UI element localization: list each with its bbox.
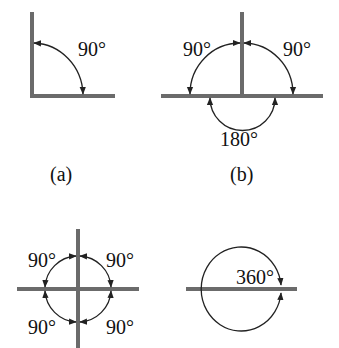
straight-angle-arc (210, 98, 275, 131)
top-right-label: 90° (106, 249, 134, 271)
left-angle-label: 90° (183, 38, 211, 60)
top-left-label: 90° (28, 249, 56, 271)
bottom-right-label: 90° (106, 316, 134, 338)
panel-caption: (b) (230, 163, 253, 186)
bottom-left-label: 90° (28, 316, 56, 338)
panel-d-full-angle: 360° (186, 247, 297, 331)
panel-c-four-right-angles: 90° 90° 90° 90° (17, 229, 139, 348)
angle-arc (34, 43, 83, 94)
full-angle-label: 360° (236, 266, 274, 288)
angles-diagram: 90° (a) 90° 90° 180° (b) 90° 90° 90° 90°… (0, 0, 339, 348)
straight-angle-label: 180° (220, 128, 258, 150)
angle-label: 90° (78, 38, 106, 60)
panel-a-right-angle: 90° (a) (30, 12, 115, 186)
right-angle-label: 90° (283, 38, 311, 60)
panel-b-straight-angle: 90° 90° 180° (b) (161, 12, 323, 186)
panel-caption: (a) (50, 163, 72, 186)
